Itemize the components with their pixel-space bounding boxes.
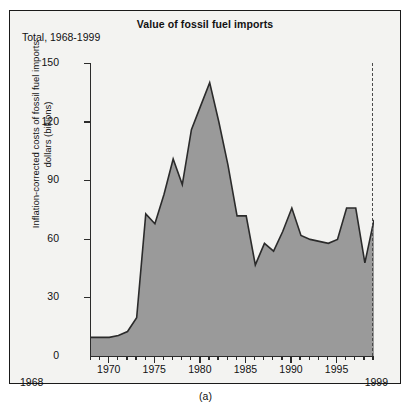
x-tick-1972 xyxy=(126,357,127,361)
x-tick-1989 xyxy=(281,357,282,361)
x-tick-1969 xyxy=(99,357,100,361)
x-tick-1999 xyxy=(372,357,373,361)
x-tick-1990 xyxy=(290,357,291,363)
x-tick-1996 xyxy=(345,357,346,361)
x-tick-1983 xyxy=(227,357,228,361)
x-axis-start-label: 1968 xyxy=(20,376,43,388)
x-tick-1984 xyxy=(236,357,237,361)
x-tick-1981 xyxy=(208,357,209,361)
x-tick-1997 xyxy=(354,357,355,361)
x-tick-1977 xyxy=(172,357,173,361)
x-tick-1988 xyxy=(272,357,273,361)
y-tick-label-30: 30 xyxy=(19,290,59,302)
fossil-fuel-imports-area xyxy=(91,83,374,357)
x-tick-1978 xyxy=(181,357,182,361)
figure-panel: Value of fossil fuel imports Total, 1968… xyxy=(0,0,411,415)
chart-frame: Value of fossil fuel imports Total, 1968… xyxy=(9,10,401,384)
y-tick-label-120: 120 xyxy=(19,115,59,127)
x-tick-label-1990: 1990 xyxy=(279,363,302,375)
x-tick-1979 xyxy=(190,357,191,361)
x-tick-1992 xyxy=(309,357,310,361)
figure-caption: (a) xyxy=(0,390,411,402)
y-tick-label-60: 60 xyxy=(19,232,59,244)
x-tick-1985 xyxy=(245,357,246,363)
x-tick-1968 xyxy=(90,357,91,361)
x-tick-1970 xyxy=(108,357,109,363)
chart-title: Value of fossil fuel imports xyxy=(10,18,400,30)
y-tick-label-150: 150 xyxy=(19,56,59,68)
x-tick-1971 xyxy=(117,357,118,361)
x-tick-1987 xyxy=(263,357,264,361)
x-tick-1994 xyxy=(327,357,328,361)
x-tick-1993 xyxy=(318,357,319,361)
x-tick-label-1970: 1970 xyxy=(97,363,120,375)
x-tick-label-1985: 1985 xyxy=(234,363,257,375)
area-chart-svg xyxy=(91,63,374,357)
x-tick-1973 xyxy=(135,357,136,361)
x-tick-1976 xyxy=(163,357,164,361)
end-year-boundary-dashed xyxy=(372,63,373,356)
x-tick-1980 xyxy=(199,357,200,363)
x-tick-1998 xyxy=(363,357,364,361)
x-tick-1975 xyxy=(154,357,155,363)
x-tick-label-1980: 1980 xyxy=(188,363,211,375)
x-tick-1974 xyxy=(145,357,146,361)
x-tick-1995 xyxy=(336,357,337,363)
x-tick-1991 xyxy=(299,357,300,361)
y-tick-label-90: 90 xyxy=(19,173,59,185)
x-axis-end-label: 1999 xyxy=(365,376,388,388)
x-axis-line xyxy=(90,356,374,357)
x-tick-1986 xyxy=(254,357,255,361)
x-tick-label-1975: 1975 xyxy=(143,363,166,375)
x-tick-1982 xyxy=(217,357,218,361)
y-tick-label-0: 0 xyxy=(19,349,59,361)
plot-area xyxy=(91,63,374,356)
x-tick-label-1995: 1995 xyxy=(325,363,348,375)
